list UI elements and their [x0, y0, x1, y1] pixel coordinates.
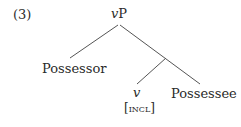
root-p: P: [118, 6, 127, 21]
incl-feature: [incl]: [124, 102, 155, 115]
branch-root-possessee: [120, 25, 200, 84]
v-head-node: v: [133, 86, 140, 99]
example-number: (3): [13, 8, 31, 21]
root-node-vP: vP: [111, 7, 127, 20]
branch-root-possessor: [70, 25, 118, 58]
possessee-node: Possessee: [171, 87, 237, 100]
possessor-node: Possessor: [42, 62, 106, 75]
branch-node-v: [137, 58, 166, 84]
